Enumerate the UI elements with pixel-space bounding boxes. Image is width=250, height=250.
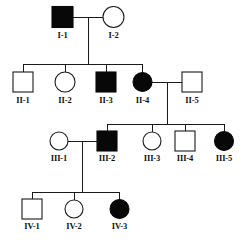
individual-II-3[interactable] bbox=[96, 72, 116, 92]
individual-IV-2[interactable] bbox=[65, 200, 83, 218]
individual-III-2[interactable] bbox=[97, 131, 117, 151]
individual-II-5[interactable] bbox=[182, 72, 202, 92]
individual-IV-3[interactable] bbox=[110, 200, 129, 219]
mating-group-2 bbox=[107, 82, 224, 132]
label-II-5: II-5 bbox=[185, 95, 198, 105]
label-II-3: II-3 bbox=[99, 95, 112, 105]
individual-III-5[interactable] bbox=[215, 132, 234, 151]
individual-III-3[interactable] bbox=[143, 132, 161, 150]
label-II-4: II-4 bbox=[136, 95, 149, 105]
label-IV-1: IV-1 bbox=[24, 221, 40, 231]
pedigree-diagram-canvas bbox=[0, 0, 250, 250]
label-III-5: III-5 bbox=[216, 153, 233, 163]
individual-IV-1[interactable] bbox=[22, 199, 42, 219]
label-I-2: I-2 bbox=[108, 30, 118, 40]
label-II-2: II-2 bbox=[58, 95, 71, 105]
individual-I-1[interactable] bbox=[52, 7, 73, 28]
individual-III-4[interactable] bbox=[175, 131, 195, 151]
individual-I-2[interactable] bbox=[103, 7, 124, 28]
label-IV-3: IV-3 bbox=[112, 221, 128, 231]
label-III-2: III-2 bbox=[99, 153, 116, 163]
label-I-1: I-1 bbox=[57, 30, 67, 40]
label-III-1: III-1 bbox=[51, 153, 68, 163]
individual-II-1[interactable] bbox=[13, 72, 33, 92]
individual-II-4[interactable] bbox=[133, 73, 152, 92]
label-III-3: III-3 bbox=[144, 153, 161, 163]
individual-II-2[interactable] bbox=[55, 72, 75, 92]
label-III-4: III-4 bbox=[177, 153, 194, 163]
individual-III-1[interactable] bbox=[50, 132, 68, 150]
label-II-1: II-1 bbox=[16, 95, 29, 105]
pedigree-chart: I-1 I-2 II-1 II-2 II-3 II-4 II-5 III-1 I… bbox=[0, 0, 250, 250]
mating-group-1 bbox=[23, 17, 143, 73]
label-IV-2: IV-2 bbox=[66, 221, 82, 231]
